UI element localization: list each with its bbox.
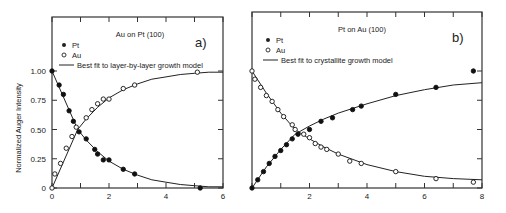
- pt-data-point: [101, 158, 105, 162]
- pt-data-point: [359, 104, 363, 108]
- au-data-point: [264, 93, 268, 97]
- au-data-point: [394, 169, 398, 173]
- au-data-point: [359, 161, 363, 165]
- au-data-point: [58, 161, 62, 165]
- pt-data-point: [290, 137, 294, 141]
- au-data-point: [95, 102, 99, 106]
- pt-data-point: [50, 69, 54, 73]
- au-data-point: [325, 147, 329, 151]
- panel-title: Pt on Au (100): [338, 25, 386, 34]
- x-tick-label: 2: [107, 192, 112, 201]
- au-data-point: [64, 146, 68, 150]
- figure: Normalized Auger Intensity 00.250.500.75…: [0, 0, 506, 213]
- pt-data-point: [471, 69, 475, 73]
- panel-label: a): [195, 35, 207, 50]
- x-tick-label: 4: [164, 192, 169, 201]
- au-data-point: [319, 145, 323, 149]
- y-tick-label: 0: [42, 184, 47, 193]
- au-data-point: [302, 132, 306, 136]
- au-data-point: [195, 70, 199, 74]
- y-tick-label: 1.00: [30, 67, 46, 76]
- au-data-point: [90, 107, 94, 111]
- legend-label: Pt: [72, 41, 80, 50]
- au-data-point: [250, 69, 254, 73]
- au-data-point: [107, 97, 111, 101]
- pt-data-point: [256, 178, 260, 182]
- y-tick-labels: 00.250.500.751.00: [30, 67, 46, 193]
- au-data-point: [348, 159, 352, 163]
- panel-a: 0246Au on Pt (100)a)PtAuBest fit to laye…: [50, 17, 226, 201]
- pt-data-point: [261, 169, 265, 173]
- pt-data-point: [250, 186, 254, 190]
- pt-data-point: [57, 83, 61, 87]
- au-data-point: [307, 135, 311, 139]
- plot-frame: [252, 12, 482, 188]
- pt-data-point: [84, 137, 88, 141]
- pt-data-point: [330, 116, 334, 120]
- y-tick-label: 0.50: [30, 126, 46, 135]
- fit-curve: [252, 83, 482, 188]
- pt-data-point: [61, 92, 65, 96]
- x-tick-label: 8: [480, 192, 485, 201]
- pt-data-point: [350, 107, 354, 111]
- x-tick-label: 2: [307, 192, 312, 201]
- y-tick-label: 0.25: [30, 155, 46, 164]
- pt-data-point: [273, 154, 277, 158]
- au-data-point: [84, 116, 88, 120]
- legend-filled-circle-icon: [266, 38, 270, 42]
- x-tick-label: 0: [50, 192, 55, 201]
- pt-data-point: [198, 186, 202, 190]
- pt-data-point: [279, 148, 283, 152]
- pt-data-point: [307, 127, 311, 131]
- au-data-point: [50, 186, 54, 190]
- y-axis-label: Normalized Auger Intensity: [14, 83, 23, 173]
- x-tick-label: 4: [365, 192, 370, 201]
- pt-data-point: [296, 132, 300, 136]
- au-data-point: [471, 180, 475, 184]
- panel-b: 2468Pt on Au (100)b)PtAuBest fit to crys…: [250, 12, 485, 201]
- svg-text:Normalized Auger Intensity: Normalized Auger Intensity: [14, 83, 23, 173]
- pt-data-point: [267, 161, 271, 165]
- pt-data-point: [107, 158, 111, 162]
- x-tick-label: 6: [422, 192, 427, 201]
- panel-title: Au on Pt (100): [116, 30, 165, 39]
- pt-data-point: [434, 85, 438, 89]
- au-data-point: [132, 83, 136, 87]
- legend-label: Au: [276, 46, 285, 55]
- fit-curve: [252, 71, 482, 180]
- pt-data-point: [77, 130, 81, 134]
- legend-label: Au: [72, 51, 81, 60]
- legend-label: Best fit to crystallite growth model: [281, 56, 393, 65]
- au-data-point: [70, 134, 74, 138]
- au-data-point: [276, 107, 280, 111]
- au-data-point: [74, 125, 78, 129]
- au-data-point: [121, 86, 125, 90]
- au-data-point: [313, 141, 317, 145]
- au-data-point: [281, 114, 285, 118]
- au-data-point: [53, 172, 57, 176]
- pt-data-point: [95, 152, 99, 156]
- pt-data-point: [394, 92, 398, 96]
- au-data-point: [101, 97, 105, 101]
- y-tick-label: 0.75: [30, 96, 46, 105]
- panel-label: b): [452, 30, 464, 45]
- au-data-point: [336, 152, 340, 156]
- legend-label: Best fit to layer-by-layer growth model: [77, 61, 203, 70]
- au-data-point: [253, 77, 257, 81]
- pt-data-point: [71, 119, 75, 123]
- legend-open-circle-icon: [266, 48, 270, 52]
- pt-data-point: [284, 143, 288, 147]
- legend-open-circle-icon: [62, 53, 66, 57]
- pt-data-point: [93, 147, 97, 151]
- pt-data-point: [319, 119, 323, 123]
- pt-data-point: [132, 172, 136, 176]
- pt-data-point: [67, 109, 71, 113]
- legend-filled-circle-icon: [62, 43, 66, 47]
- au-data-point: [258, 85, 262, 89]
- legend-label: Pt: [276, 36, 284, 45]
- x-tick-label: 6: [221, 192, 226, 201]
- au-data-point: [290, 123, 294, 127]
- au-data-point: [293, 127, 297, 131]
- pt-data-point: [121, 167, 125, 171]
- au-data-point: [434, 176, 438, 180]
